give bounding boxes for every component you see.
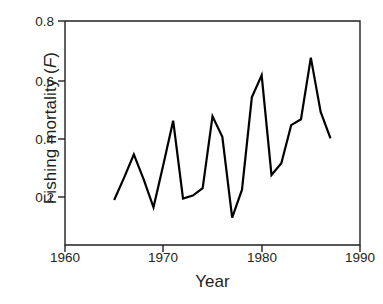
x-axis-tick-label-1990: 1990 (330, 250, 383, 265)
y-axis-title-text: Fishing mortality ( (41, 68, 61, 204)
x-axis-tick-label-1980: 1980 (232, 250, 292, 265)
axes-frame (65, 21, 360, 245)
fishing-mortality-chart: 0.8 0.6 0.4 0.2 1960 1970 1980 1990 Fish… (0, 0, 383, 304)
x-axis-tick-label-1970: 1970 (133, 250, 193, 265)
x-axis-tick-label-1960: 1960 (35, 250, 95, 265)
axes-box (65, 21, 360, 245)
y-axis-title: Fishing mortality (F) (34, 8, 68, 248)
x-axis-ticks (65, 245, 360, 252)
y-axis-title-symbol: F (41, 58, 61, 68)
data-line-fishing-mortality (114, 58, 330, 218)
y-axis-title-close: ) (41, 52, 61, 58)
x-axis-title: Year (65, 272, 360, 292)
